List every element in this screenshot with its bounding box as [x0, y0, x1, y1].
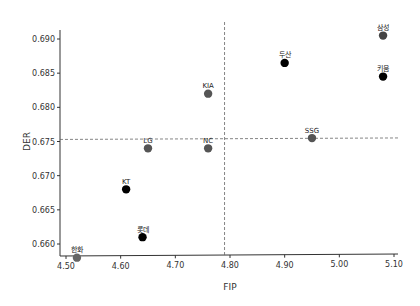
x-tick-label: 4.70 [166, 261, 184, 270]
point-label: 삼성 [377, 23, 389, 32]
y-tick-label: 0.675 [32, 138, 55, 147]
data-point: NC [203, 137, 213, 153]
point-marker [138, 233, 146, 241]
data-points: 한화KT롯데LGNCKIA두산SSG삼성키움 [71, 23, 390, 262]
point-marker [204, 89, 212, 97]
y-tick-label: 0.660 [32, 240, 55, 249]
x-tick-label: 4.60 [112, 262, 130, 271]
point-marker [204, 144, 212, 152]
point-marker [144, 144, 152, 152]
point-label: 한화 [71, 246, 84, 254]
point-label: LG [143, 137, 152, 145]
x-tick-label: 4.80 [221, 261, 239, 270]
scatter-chart: 4.504.604.704.804.905.005.100.6600.6650.… [0, 0, 420, 306]
point-marker [379, 31, 387, 39]
data-point: 한화 [71, 246, 84, 262]
x-axis-label: FIP [223, 282, 237, 292]
point-marker [280, 59, 288, 67]
point-marker [122, 185, 130, 193]
data-point: 삼성 [377, 23, 389, 40]
point-marker [73, 253, 81, 261]
point-label: KT [122, 178, 131, 186]
x-axis-spine [60, 254, 398, 256]
data-point: 키움 [377, 64, 390, 81]
x-tick-label: 5.00 [330, 260, 348, 269]
y-tick-label: 0.670 [32, 172, 55, 181]
y-tick-label: 0.680 [32, 103, 55, 112]
data-point: 두산 [279, 50, 292, 67]
point-label: NC [203, 137, 213, 145]
point-label: 두산 [279, 50, 292, 59]
x-tick-label: 4.90 [276, 261, 294, 270]
data-point: LG [143, 137, 152, 153]
point-marker [308, 134, 316, 142]
y-tick-label: 0.665 [32, 206, 55, 215]
y-tick-label: 0.685 [32, 69, 55, 78]
data-point: KT [122, 178, 131, 194]
point-label: SSG [305, 127, 319, 135]
point-label: 키움 [377, 64, 390, 73]
point-label: KIA [202, 82, 214, 90]
data-point: SSG [305, 127, 319, 143]
x-tick-label: 4.50 [57, 262, 75, 271]
data-point: 롯데 [137, 226, 149, 242]
data-point: KIA [202, 82, 214, 98]
point-label: 롯데 [137, 226, 149, 234]
axes: 4.504.604.704.804.905.005.100.6600.6650.… [32, 30, 403, 271]
point-marker [379, 72, 387, 80]
x-tick-label: 5.10 [385, 260, 403, 269]
y-axis-label: DER [22, 132, 32, 151]
y-tick-label: 0.690 [32, 35, 55, 44]
mean-der-line [60, 138, 398, 140]
reference-lines [60, 22, 398, 256]
